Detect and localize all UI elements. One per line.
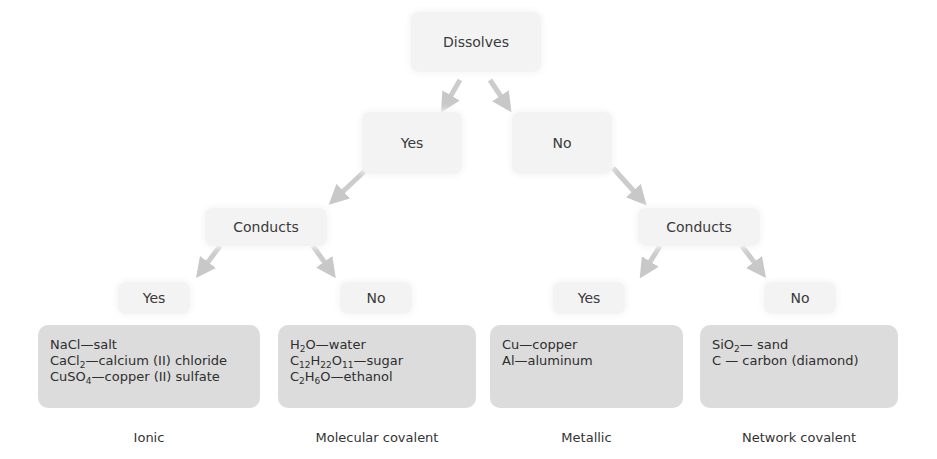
category-ionic: Ionic xyxy=(38,430,260,445)
leaf-metallic: Cu—copper Al—aluminum xyxy=(490,325,683,408)
node-left-no: No xyxy=(340,282,412,314)
arrow-yes-conducts xyxy=(336,168,368,198)
item-sugar: C12H22O11—sugar xyxy=(290,353,464,369)
arrow-rconducts-yes xyxy=(645,246,660,270)
leaf-network-covalent: SiO2— sand C — carbon (diamond) xyxy=(700,325,898,408)
arrow-lconducts-no xyxy=(313,246,330,270)
item-nacl: NaCl—salt xyxy=(50,337,248,353)
arrow-dissolves-no xyxy=(490,80,506,104)
item-al: Al—aluminum xyxy=(502,353,671,369)
category-metallic: Metallic xyxy=(490,430,683,445)
node-dissolves-no: No xyxy=(512,112,612,174)
node-right-conducts: Conducts xyxy=(638,208,760,246)
item-h2o: H2O—water xyxy=(290,337,464,353)
item-cuso4: CuSO4—copper (II) sulfate xyxy=(50,369,248,385)
left-conducts-label: Conducts xyxy=(233,219,298,235)
leaf-molecular-covalent: H2O—water C12H22O11—sugar C2H6O—ethanol xyxy=(278,325,476,408)
arrow-dissolves-yes xyxy=(446,80,460,104)
right-yes-label: Yes xyxy=(578,290,601,306)
node-left-conducts: Conducts xyxy=(205,208,327,246)
category-molecular-covalent: Molecular covalent xyxy=(278,430,476,445)
item-cu: Cu—copper xyxy=(502,337,671,353)
node-right-no: No xyxy=(764,282,836,314)
arrow-rconducts-no xyxy=(742,246,760,270)
right-conducts-label: Conducts xyxy=(666,219,731,235)
node-dissolves-yes: Yes xyxy=(362,112,462,174)
item-sio2: SiO2— sand xyxy=(712,337,886,353)
node-no-label: No xyxy=(552,135,571,151)
node-right-yes: Yes xyxy=(553,282,625,314)
node-yes-label: Yes xyxy=(401,135,424,151)
node-dissolves: Dissolves xyxy=(411,12,541,72)
leaf-ionic: NaCl—salt CaCl2—calcium (II) chloride Cu… xyxy=(38,325,260,408)
node-dissolves-label: Dissolves xyxy=(443,34,509,50)
item-carbon: C — carbon (diamond) xyxy=(712,353,886,369)
item-cacl2: CaCl2—calcium (II) chloride xyxy=(50,353,248,369)
left-no-label: No xyxy=(366,290,385,306)
arrow-no-conducts xyxy=(613,168,640,198)
arrow-lconducts-yes xyxy=(202,246,220,270)
left-yes-label: Yes xyxy=(143,290,166,306)
item-ethanol: C2H6O—ethanol xyxy=(290,369,464,385)
category-network-covalent: Network covalent xyxy=(700,430,898,445)
right-no-label: No xyxy=(790,290,809,306)
node-left-yes: Yes xyxy=(118,282,190,314)
